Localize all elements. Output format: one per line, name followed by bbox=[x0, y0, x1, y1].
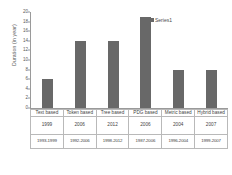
table-cell-category-5: Hybrid based bbox=[195, 110, 228, 117]
y-axis-tick-mark bbox=[28, 69, 30, 70]
y-axis-title: Duration (in year) bbox=[11, 5, 17, 85]
table-cell-range-2: 1998-2012 bbox=[96, 134, 129, 148]
table-cell-range-0: 1993-1999 bbox=[31, 134, 64, 148]
bar-hybrid-based bbox=[206, 70, 217, 108]
table-row-range: 1993-19991992-20061998-20121987-20061996… bbox=[31, 134, 228, 148]
y-axis-tick-mark bbox=[28, 21, 30, 22]
bar-cell-2 bbox=[97, 12, 130, 108]
y-axis-tick-mark bbox=[28, 88, 30, 89]
table-cell-category-2: Tree based bbox=[96, 110, 129, 117]
table-cell-year-0: 1999 bbox=[31, 116, 64, 134]
bar-chart-figure: Duration (in year) 02468101214161820 Ser… bbox=[0, 0, 232, 175]
table-cell-year-3: 2006 bbox=[129, 116, 162, 134]
table-cell-year-2: 2012 bbox=[96, 116, 129, 134]
table-cell-range-1: 1992-2006 bbox=[63, 134, 96, 148]
bar-cell-3 bbox=[129, 12, 162, 108]
y-axis-tick-mark bbox=[28, 98, 30, 99]
y-axis-tick-mark bbox=[28, 31, 30, 32]
table-cell-range-4: 1996-2004 bbox=[162, 134, 195, 148]
table-cell-year-4: 2004 bbox=[162, 116, 195, 134]
legend-swatch-icon bbox=[150, 18, 154, 22]
table-cell-category-1: Token based bbox=[63, 110, 96, 117]
bar-metric-based bbox=[173, 70, 184, 108]
category-data-table: Text basedToken basedTree basedPDG based… bbox=[30, 109, 228, 149]
bar-pdg-based bbox=[140, 17, 151, 108]
y-axis-tick-mark bbox=[28, 60, 30, 61]
plot-area: 02468101214161820 bbox=[30, 12, 228, 109]
bar-cell-4 bbox=[162, 12, 195, 108]
chart-legend: Series1 bbox=[150, 17, 172, 23]
y-axis-tick-mark bbox=[28, 79, 30, 80]
table-cell-year-5: 2007 bbox=[195, 116, 228, 134]
bar-cell-1 bbox=[64, 12, 97, 108]
y-axis-tick-mark bbox=[28, 12, 30, 13]
table-cell-category-3: PDG based bbox=[129, 110, 162, 117]
bar-series-group bbox=[31, 12, 228, 108]
bar-tree-based bbox=[108, 41, 119, 108]
legend-entry-label: Series1 bbox=[155, 17, 172, 23]
bar-cell-0 bbox=[31, 12, 64, 108]
y-axis-tick-mark bbox=[28, 40, 30, 41]
table-cell-range-5: 1999-2007 bbox=[195, 134, 228, 148]
bar-text-based bbox=[42, 79, 53, 108]
table-cell-year-1: 2006 bbox=[63, 116, 96, 134]
table-row-year: 199920062012200620042007 bbox=[31, 116, 228, 134]
y-axis-tick-mark bbox=[28, 50, 30, 51]
table-cell-category-4: Metric based bbox=[162, 110, 195, 117]
bar-cell-5 bbox=[195, 12, 228, 108]
table-cell-range-3: 1987-2006 bbox=[129, 134, 162, 148]
bar-token-based bbox=[75, 41, 86, 108]
